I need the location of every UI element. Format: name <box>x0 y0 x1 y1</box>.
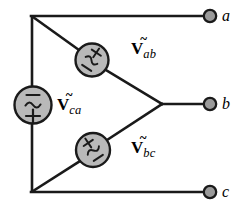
label-v-ab-tilde-icon: ~ <box>140 32 147 45</box>
label-v-ab-subscript: ab <box>143 47 156 61</box>
terminal-a-dot[interactable] <box>204 10 216 22</box>
circuit-canvas <box>0 0 234 212</box>
terminal-b-dot[interactable] <box>204 98 216 110</box>
source-bc[interactable] <box>76 133 110 167</box>
label-v-bc-subscript: bc <box>143 146 155 160</box>
terminal-dot-group <box>204 10 216 198</box>
terminal-c-label: c <box>222 184 229 200</box>
terminal-a-label: a <box>222 8 230 24</box>
label-v-ca: V~ca <box>57 96 81 116</box>
wire-diagonal-bc-lower <box>33 161 80 191</box>
label-v-bc-tilde-icon: ~ <box>140 131 147 144</box>
label-v-ca-subscript: ca <box>69 103 81 117</box>
circuit-diagram-delta-source: V~ab V~ca V~bc a b c <box>0 0 234 212</box>
label-v-ca-tilde-icon: ~ <box>66 88 73 101</box>
source-ab[interactable] <box>76 44 109 77</box>
source-ca[interactable] <box>15 87 52 124</box>
terminal-c-dot[interactable] <box>204 186 216 198</box>
wire-diagonal-bc-upper <box>107 104 162 140</box>
wire-diagonal-ab-lower <box>106 70 162 104</box>
wire-diagonal-ab-upper <box>33 17 79 50</box>
label-v-bc: V~bc <box>131 139 155 159</box>
terminal-b-label: b <box>222 96 230 112</box>
label-v-ab: V~ab <box>131 40 156 60</box>
